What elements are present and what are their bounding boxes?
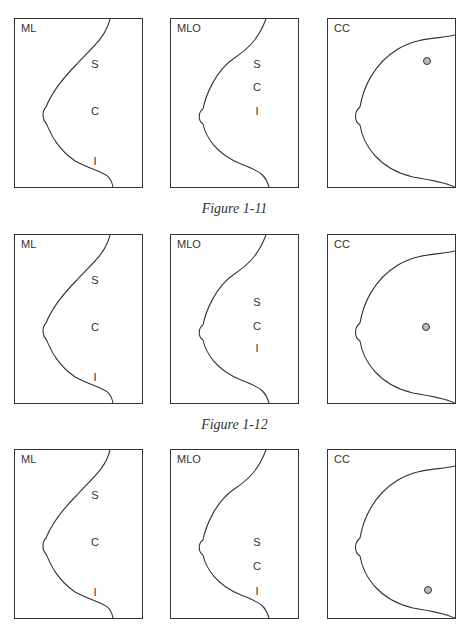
fig11-ml-view: ML S C I [14, 18, 143, 188]
view-label: CC [334, 238, 350, 250]
fig11-mlo-view: MLO S C I [170, 18, 299, 188]
fig13-cc-view: CC [327, 449, 456, 619]
zone-superior: S [253, 296, 260, 308]
zone-inferior: I [255, 342, 258, 354]
zone-superior: S [91, 489, 98, 501]
zone-superior: S [91, 274, 98, 286]
lesion-marker [423, 324, 430, 331]
zone-inferior: I [93, 155, 96, 167]
breast-outline-mlo [171, 450, 298, 618]
view-label: CC [334, 22, 350, 34]
figure-caption: Figure 1-11 [0, 201, 469, 217]
lesion-marker [424, 58, 431, 65]
view-label: MLO [177, 238, 201, 250]
zone-inferior: I [255, 105, 258, 117]
view-label: ML [21, 22, 36, 34]
zone-superior: S [253, 58, 260, 70]
zone-central: C [253, 320, 261, 332]
zone-inferior: I [93, 371, 96, 383]
zone-central: C [253, 81, 261, 93]
zone-inferior: I [93, 586, 96, 598]
zone-central: C [91, 105, 99, 117]
breast-outline-cc [328, 19, 455, 187]
view-label: ML [21, 238, 36, 250]
view-label: MLO [177, 453, 201, 465]
breast-outline-ml [15, 19, 142, 187]
figure-caption: Figure 1-12 [0, 417, 469, 433]
zone-superior: S [253, 536, 260, 548]
fig12-ml-view: ML S C I [14, 234, 143, 404]
breast-outline-ml [15, 450, 142, 618]
breast-outline-mlo [171, 235, 298, 403]
view-label: CC [334, 453, 350, 465]
fig11-cc-view: CC [327, 18, 456, 188]
fig12-cc-view: CC [327, 234, 456, 404]
breast-outline-cc [328, 235, 455, 403]
fig13-mlo-view: MLO S C I [170, 449, 299, 619]
lesion-marker [425, 587, 432, 594]
view-label: MLO [177, 22, 201, 34]
zone-central: C [253, 560, 261, 572]
breast-outline-ml [15, 235, 142, 403]
breast-outline-cc [328, 450, 455, 618]
breast-outline-mlo [171, 19, 298, 187]
zone-superior: S [91, 58, 98, 70]
view-label: ML [21, 453, 36, 465]
zone-central: C [91, 321, 99, 333]
zone-inferior: I [255, 585, 258, 597]
fig13-ml-view: ML S C I [14, 449, 143, 619]
fig12-mlo-view: MLO S C I [170, 234, 299, 404]
zone-central: C [91, 536, 99, 548]
